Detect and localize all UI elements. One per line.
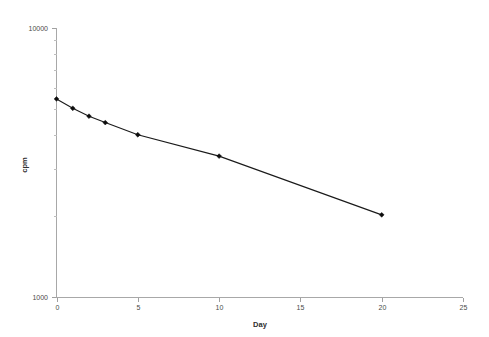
x-tick-label-10: 10: [216, 304, 224, 311]
x-tick-label-0: 0: [56, 304, 60, 311]
x-axis-ticks: [58, 298, 464, 302]
x-axis-tick-labels: 0510152025: [56, 304, 468, 311]
x-tick-label-15: 15: [297, 304, 305, 311]
data-point-marker: [135, 132, 140, 137]
chart-plot-area: 10000 1000 0510152025 Day cpm: [0, 0, 489, 337]
data-point-marker: [54, 97, 59, 102]
data-point-marker: [87, 114, 92, 119]
y-axis-title: cpm: [20, 157, 29, 173]
data-point-marker: [103, 120, 108, 125]
x-tick-label-25: 25: [460, 304, 468, 311]
data-point-marker: [70, 106, 75, 111]
y-tick-label-10000: 10000: [29, 25, 49, 32]
data-point-marker: [217, 154, 222, 159]
x-axis-title: Day: [253, 320, 268, 329]
y-tick-label-1000: 1000: [32, 294, 48, 301]
chart-figure: 10000 1000 0510152025 Day cpm: [0, 0, 489, 337]
data-point-marker: [379, 212, 384, 217]
x-tick-label-5: 5: [137, 304, 141, 311]
data-series-markers: [54, 97, 384, 218]
x-tick-label-20: 20: [379, 304, 387, 311]
y-axis-major-ticks: [52, 29, 56, 298]
